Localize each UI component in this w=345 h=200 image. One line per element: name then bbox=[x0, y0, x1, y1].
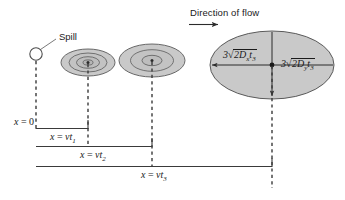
figure-canvas bbox=[0, 0, 345, 200]
axis-label-x-vt2-eq: = bbox=[84, 149, 95, 160]
axis-label-x-vt3-sub: 3 bbox=[163, 175, 167, 183]
plume-t3 bbox=[210, 31, 334, 99]
ellipse-vertical-label: 3√2Dyt3 bbox=[281, 58, 315, 72]
ellipse-horizontal-label: 3√2Dxt3 bbox=[223, 49, 257, 63]
flow-direction-label: Direction of flow bbox=[190, 8, 259, 18]
axis-label-x-vt1: x = vt1 bbox=[50, 132, 76, 145]
plume-t2 bbox=[119, 44, 185, 77]
axis-label-x-origin-value: 0 bbox=[29, 116, 34, 127]
radicand-h-t-sub: 3 bbox=[252, 55, 256, 63]
axis-label-x-vt3: x = vt3 bbox=[141, 170, 167, 183]
axis-label-x-origin-eq: = bbox=[18, 116, 29, 127]
radicand-v: 2D bbox=[292, 58, 304, 69]
axis-label-x-vt3-eq: = bbox=[145, 169, 156, 180]
spill-marker bbox=[30, 39, 56, 60]
axis-label-x-origin: x = 0 bbox=[14, 117, 34, 127]
axis-label-x-vt2: x = vt2 bbox=[80, 150, 106, 163]
radicand-v-t-sub: 3 bbox=[310, 64, 314, 72]
axis-label-x-vt1-eq: = bbox=[54, 131, 65, 142]
radicand-h: 2D bbox=[234, 49, 246, 60]
spill-label: Spill bbox=[59, 32, 77, 42]
bracket-t3 bbox=[36, 158, 272, 167]
axis-label-x-vt1-sub: 1 bbox=[72, 137, 76, 145]
bracket-t1 bbox=[36, 120, 88, 129]
diffusion-plume-figure: Direction of flow Spill 3√2Dxt3 3√2Dyt3 … bbox=[0, 0, 345, 200]
axis-label-x-vt2-sub: 2 bbox=[102, 155, 106, 163]
